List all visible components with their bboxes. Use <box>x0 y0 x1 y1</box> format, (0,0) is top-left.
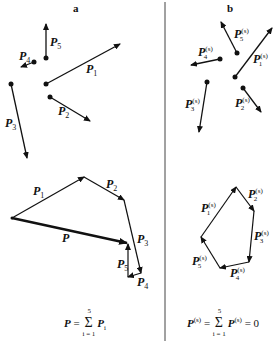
polygon-label-p5s: P(s)5 <box>192 255 201 267</box>
label-p3: P3 <box>5 117 16 132</box>
application-point-p4 <box>32 60 37 65</box>
application-point-p3 <box>9 82 14 87</box>
force-diagram: a b P5 P4 P1 P2 P3 P1 P2 P3 P5 P4 P P(s)… <box>0 0 273 341</box>
label-p1s: P(s)1 <box>253 53 262 65</box>
application-point-p5s <box>235 51 240 56</box>
label-p4s: P(s)4 <box>198 46 207 58</box>
application-point-p3s <box>205 80 210 85</box>
resultant-arrow-p <box>12 218 127 243</box>
application-point-p1s <box>233 75 238 80</box>
formula-b: P(s) = Σ5i = 1 P(s) = 0 <box>187 315 259 331</box>
polygon-edge-p5s <box>201 237 220 268</box>
label-p1: P1 <box>86 63 97 78</box>
force-arrow-p3s <box>199 82 207 132</box>
application-point-p5 <box>44 56 49 61</box>
label-p5s: P(s)5 <box>234 28 243 40</box>
label-p2s: P(s)2 <box>235 97 244 109</box>
polygon-label-p1: P1 <box>33 185 44 200</box>
polygon-label-p3: P3 <box>137 233 148 248</box>
polygon-label-p2s: P(s)2 <box>248 188 257 200</box>
force-arrow-p2 <box>50 97 90 121</box>
polygon-label-p1s: P(s)1 <box>201 202 210 214</box>
resultant-label-p: P <box>62 232 69 244</box>
panel-b-forces <box>191 22 272 132</box>
label-p4: P4 <box>19 50 30 65</box>
polygon-edge-p1 <box>12 177 84 218</box>
application-point-p4s <box>218 57 223 62</box>
panel-a-forces <box>9 24 121 158</box>
polygon-edge-p2 <box>84 177 124 200</box>
label-p2: P2 <box>58 105 69 120</box>
formula-a: P = Σ5i = 1 Pi <box>64 315 106 331</box>
application-point-p2 <box>48 95 53 100</box>
panel-b-polygon <box>201 187 254 268</box>
label-p3s: P(s)3 <box>185 98 194 110</box>
label-p5: P5 <box>50 36 61 51</box>
application-point-p2s <box>241 86 246 91</box>
polygon-label-p5: P5 <box>117 258 128 273</box>
polygon-label-p4: P4 <box>137 276 148 291</box>
polygon-label-p2: P2 <box>106 178 117 193</box>
polygon-label-p4s: P(s)4 <box>230 267 239 279</box>
application-point-p1 <box>44 82 49 87</box>
panel-letter-b: b <box>227 2 233 14</box>
panel-letter-a: a <box>73 2 79 14</box>
polygon-label-p3s: P(s)3 <box>254 230 263 242</box>
